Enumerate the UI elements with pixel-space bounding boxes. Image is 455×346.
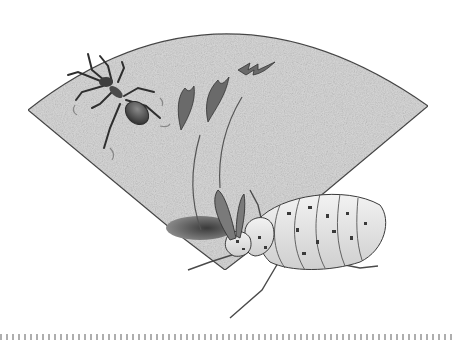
dotted-divider xyxy=(0,334,455,340)
illustration xyxy=(0,0,455,346)
